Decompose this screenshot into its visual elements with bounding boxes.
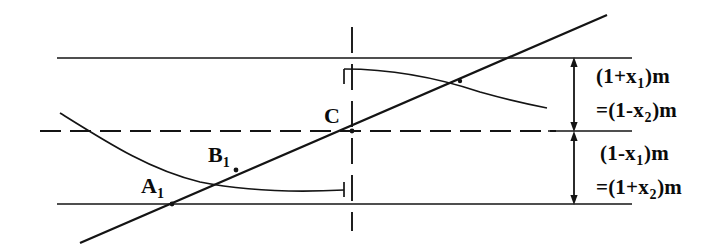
point-label-b1: B1 (208, 144, 230, 174)
upper-dimension-line1: (1+x1)m (596, 63, 677, 97)
lower-line1-pre: (1-x (600, 141, 636, 165)
lower-line1-sub: 1 (636, 153, 644, 168)
upper-line1-post: )m (645, 64, 670, 88)
point-marker-a1 (170, 202, 175, 207)
point-label-a1-sub: 1 (157, 186, 164, 201)
diagram-canvas: (1+x1)m =(1-x2)m (1-x1)m =(1+x2)m A1 B1 … (0, 0, 717, 251)
lower-dimension-line1: (1-x1)m (600, 140, 682, 174)
point-marker-upper-crossing (458, 79, 462, 83)
point-label-c-text: C (324, 103, 340, 128)
upper-dimension-label: (1+x1)m =(1-x2)m (596, 63, 677, 131)
upper-dimension-line2: =(1-x2)m (596, 97, 677, 131)
point-marker-c (350, 129, 355, 134)
point-marker-b1 (234, 168, 239, 173)
lower-dimension-line2: =(1+x2)m (596, 174, 682, 208)
point-label-b1-text: B (208, 142, 223, 167)
upper-line2-post: )m (652, 98, 677, 122)
upper-dimension-arrow (570, 57, 577, 132)
lower-line2-sub: 2 (649, 187, 657, 202)
upper-line1-pre: (1+x (596, 64, 637, 88)
point-label-a1-text: A (141, 173, 157, 198)
lower-line2-post: )m (657, 175, 682, 199)
upper-line1-sub: 1 (637, 76, 645, 91)
arched-curve-branch (344, 69, 547, 108)
lower-dimension-label: (1-x1)m =(1+x2)m (600, 140, 682, 208)
point-label-b1-sub: 1 (223, 155, 230, 170)
lower-line2-pre: =(1+x (596, 175, 649, 199)
rising-straight-line (80, 15, 607, 243)
upper-line2-sub: 2 (644, 110, 652, 125)
lower-dimension-arrow (570, 131, 577, 205)
point-label-a1: A1 (141, 175, 164, 205)
upper-line2-pre: =(1-x (596, 98, 644, 122)
lower-line1-post: )m (644, 141, 669, 165)
descending-curve-branch (60, 113, 344, 191)
point-label-c: C (324, 105, 340, 127)
